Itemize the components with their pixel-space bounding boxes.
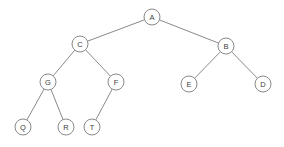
tree-edges xyxy=(27,20,258,120)
tree-edge-f-t xyxy=(96,89,112,120)
node-label-b: B xyxy=(223,42,228,51)
node-label-q: Q xyxy=(20,123,26,132)
node-label-t: T xyxy=(90,123,95,132)
tree-edge-a-b xyxy=(159,20,218,43)
tree-node-c[interactable]: C xyxy=(72,36,88,52)
node-label-g: G xyxy=(45,78,51,87)
tree-node-r[interactable]: R xyxy=(58,119,74,135)
tree-node-e[interactable]: E xyxy=(181,76,197,92)
node-label-r: R xyxy=(63,123,69,132)
tree-node-d[interactable]: D xyxy=(255,76,271,92)
tree-edge-a-c xyxy=(87,20,144,41)
node-label-f: F xyxy=(114,78,119,87)
node-label-d: D xyxy=(260,80,266,89)
binary-tree-figure: ACBGFEDQRT xyxy=(0,0,284,147)
tree-edge-b-d xyxy=(232,52,258,79)
tree-edge-c-g xyxy=(53,50,75,76)
tree-canvas: ACBGFEDQRT xyxy=(0,0,284,147)
tree-node-a[interactable]: A xyxy=(144,9,160,25)
tree-node-g[interactable]: G xyxy=(40,74,56,90)
tree-edge-b-e xyxy=(195,52,221,79)
tree-edge-c-f xyxy=(86,50,111,76)
node-label-a: A xyxy=(149,13,154,22)
tree-nodes: ACBGFEDQRT xyxy=(15,9,271,135)
tree-node-q[interactable]: Q xyxy=(15,119,31,135)
tree-edge-g-r xyxy=(51,89,63,119)
node-label-e: E xyxy=(186,80,191,89)
node-label-c: C xyxy=(77,40,83,49)
tree-node-f[interactable]: F xyxy=(108,74,124,90)
tree-edge-g-q xyxy=(27,89,44,120)
tree-node-b[interactable]: B xyxy=(218,38,234,54)
tree-node-t[interactable]: T xyxy=(84,119,100,135)
